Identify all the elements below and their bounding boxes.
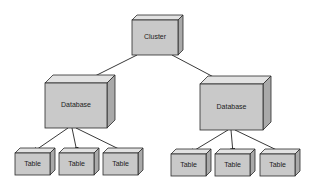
- nodes: ClusterDatabaseDatabaseTableTableTableTa…: [15, 15, 300, 176]
- node-label: Table: [112, 160, 129, 167]
- node-label: Table: [68, 160, 85, 167]
- node-table-r3: Table: [260, 149, 300, 176]
- box-side-face: [138, 148, 143, 175]
- node-label: Table: [180, 161, 197, 168]
- box-top-face: [171, 149, 211, 154]
- node-table-r2: Table: [215, 149, 255, 176]
- box-top-face: [103, 148, 143, 153]
- box-side-face: [94, 148, 99, 175]
- box-side-face: [250, 149, 255, 176]
- box-side-face: [263, 76, 271, 130]
- box-top-face: [45, 75, 115, 83]
- box-side-face: [107, 75, 115, 128]
- node-label: Database: [217, 103, 247, 110]
- box-side-face: [206, 149, 211, 176]
- box-top-face: [215, 149, 255, 154]
- node-label: Database: [61, 101, 91, 108]
- node-table-l2: Table: [59, 148, 99, 175]
- box-top-face: [260, 149, 300, 154]
- box-side-face: [295, 149, 300, 176]
- node-label: Cluster: [144, 33, 167, 40]
- node-label: Table: [224, 161, 241, 168]
- node-db-left: Database: [45, 75, 115, 128]
- box-top-face: [59, 148, 99, 153]
- node-db-right: Database: [200, 76, 271, 130]
- node-table-l3: Table: [103, 148, 143, 175]
- box-side-face: [50, 148, 55, 175]
- box-top-face: [15, 148, 55, 153]
- box-side-face: [178, 15, 183, 55]
- hierarchy-diagram: ClusterDatabaseDatabaseTableTableTableTa…: [0, 0, 309, 189]
- node-label: Table: [24, 160, 41, 167]
- node-table-r1: Table: [171, 149, 211, 176]
- box-top-face: [132, 15, 183, 20]
- node-cluster: Cluster: [132, 15, 183, 55]
- node-table-l1: Table: [15, 148, 55, 175]
- node-label: Table: [269, 161, 286, 168]
- box-top-face: [200, 76, 271, 84]
